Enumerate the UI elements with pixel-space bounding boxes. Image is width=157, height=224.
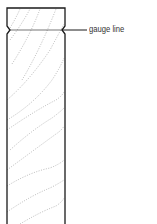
- wood-outline: [7, 8, 65, 224]
- gauge-line-label: gauge line: [89, 24, 124, 34]
- wood-piece-diagram: [0, 0, 157, 224]
- wood-grain: [7, 9, 64, 224]
